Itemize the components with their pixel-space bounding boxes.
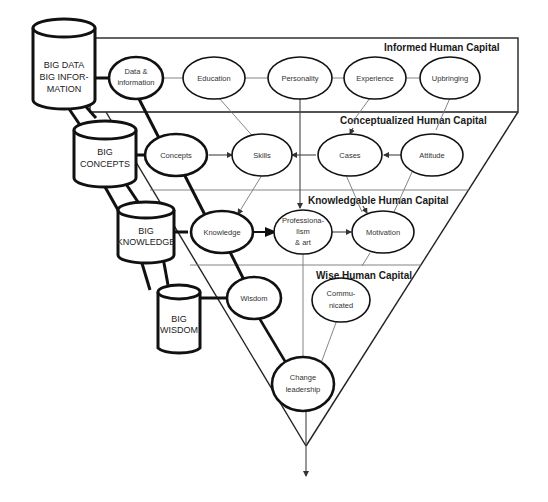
cylinder-label-line: MATION	[47, 84, 81, 94]
svg-text:Knowledge: Knowledge	[203, 228, 240, 237]
node-education: Education	[183, 57, 245, 99]
svg-text:& art: & art	[295, 238, 312, 247]
cylinder-big-data: BIG DATA BIG INFOR- MATION	[33, 19, 95, 109]
svg-text:Change: Change	[290, 373, 316, 382]
svg-text:Cases: Cases	[339, 151, 361, 160]
svg-text:Attitude: Attitude	[419, 151, 444, 160]
human-capital-diagram: Informed Human Capital Conceptualized Hu…	[0, 0, 548, 502]
svg-text:Education: Education	[197, 74, 230, 83]
svg-text:leadership: leadership	[286, 385, 321, 394]
node-motivation: Motivation	[352, 211, 414, 253]
cylinder-big-knowledge: BIG KNOWLEDGE	[117, 202, 176, 263]
svg-text:Personality: Personality	[281, 74, 318, 83]
node-personality: Personality	[268, 57, 332, 99]
cylinder-label-line: BIG	[138, 226, 154, 236]
cylinder-label-line: CONCEPTS	[80, 159, 130, 169]
band-title-informed: Informed Human Capital	[384, 42, 500, 53]
band-title-conceptualized: Conceptualized Human Capital	[340, 115, 487, 126]
cylinder-label-line: BIG	[171, 314, 187, 324]
node-concepts: Concepts	[145, 134, 207, 176]
node-upbringing: Upbringing	[420, 57, 480, 99]
svg-text:information: information	[117, 78, 154, 87]
svg-text:Experience: Experience	[356, 74, 394, 83]
node-professionalism: Professiona- lism & art	[274, 210, 332, 254]
cylinder-label-line: BIG INFOR-	[40, 72, 89, 82]
node-change-leadership: Change leadership	[272, 357, 334, 411]
node-wisdom: Wisdom	[227, 277, 281, 319]
svg-text:Data &: Data &	[125, 67, 148, 76]
svg-text:Skills: Skills	[253, 151, 271, 160]
svg-text:Wisdom: Wisdom	[240, 294, 267, 303]
cylinder-big-concepts: BIG CONCEPTS	[74, 121, 136, 187]
node-experience: Experience	[344, 57, 406, 99]
svg-text:nicated: nicated	[329, 301, 353, 310]
svg-text:lism: lism	[296, 227, 309, 236]
node-communicated: Commu- nicated	[312, 278, 370, 322]
cylinder-label-line: BIG DATA	[44, 60, 85, 70]
svg-text:Professiona-: Professiona-	[282, 216, 325, 225]
cylinder-label-line: BIG	[97, 147, 113, 157]
cylinder-label-line: KNOWLEDGE	[117, 237, 176, 247]
svg-text:Upbringing: Upbringing	[432, 74, 468, 83]
node-knowledge: Knowledge	[191, 211, 253, 253]
node-data-information: Data & information	[109, 57, 163, 99]
svg-text:Commu-: Commu-	[327, 289, 356, 298]
node-cases: Cases	[318, 134, 382, 176]
cylinder-big-wisdom: BIG WISDOM	[158, 285, 200, 353]
node-skills: Skills	[232, 134, 292, 176]
band-title-knowledgable: Knowledgable Human Capital	[308, 195, 449, 206]
svg-text:Concepts: Concepts	[160, 151, 192, 160]
svg-text:Motivation: Motivation	[366, 228, 400, 237]
cylinder-label-line: WISDOM	[160, 325, 198, 335]
node-attitude: Attitude	[401, 134, 463, 176]
